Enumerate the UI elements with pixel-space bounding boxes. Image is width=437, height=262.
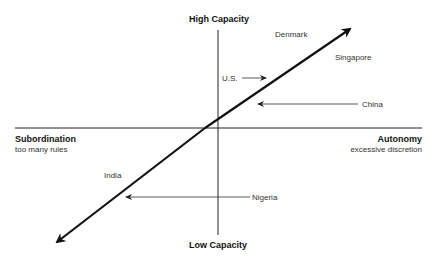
country-denmark: Denmark bbox=[275, 30, 307, 39]
axis-left-title: Subordination bbox=[15, 134, 76, 144]
country-us: U.S. bbox=[222, 74, 238, 83]
country-china: China bbox=[362, 100, 383, 109]
diagonal-arrow-down bbox=[57, 128, 205, 242]
axis-bottom-label: Low Capacity bbox=[189, 240, 247, 250]
diagram-canvas bbox=[0, 0, 437, 262]
country-singapore: Singapore bbox=[335, 53, 371, 62]
axis-left-subtitle: too many rules bbox=[15, 145, 67, 154]
country-india: India bbox=[104, 171, 121, 180]
axis-top-label: High Capacity bbox=[189, 14, 249, 24]
country-nigeria: Nigeria bbox=[252, 193, 277, 202]
axis-right-title: Autonomy bbox=[378, 134, 423, 144]
axis-right-subtitle: excessive discretion bbox=[350, 145, 422, 154]
